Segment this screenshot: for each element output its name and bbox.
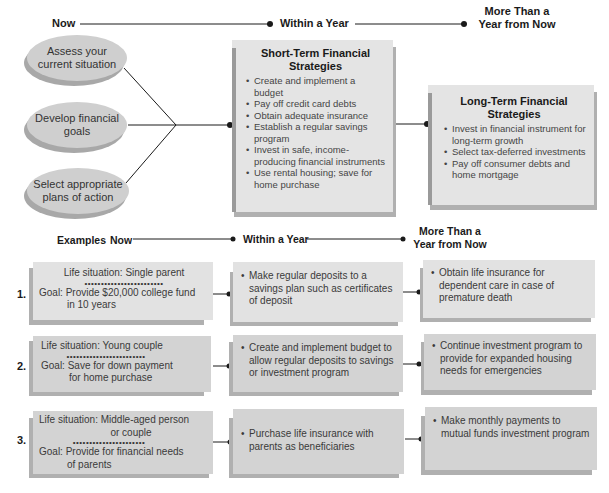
goal-line1: Goal: Provide for financial needs: [39, 446, 209, 459]
example-3-situation-box: Life situation: Middle-aged person or co…: [33, 411, 213, 474]
step-assess-situation: Assess yourcurrent situation: [27, 35, 127, 81]
long-term-list: Invest in financial instrument for long-…: [442, 123, 586, 181]
short-term-item: Invest in safe, income-producing financi…: [254, 144, 387, 167]
separator-dots: ••••••••••••••••••••••••: [41, 353, 171, 360]
short-term-item: Obtain adequate insurance: [254, 110, 387, 122]
short-term-item: Establish a regular savings program: [254, 121, 387, 144]
long-term-strategies-box: Long-Term FinancialStrategies Invest in …: [428, 85, 594, 205]
goal-line2: of parents: [39, 459, 209, 472]
step-label-line2: current situation: [38, 58, 116, 71]
timeline-more-than-year-line2: Year from Now: [472, 18, 562, 31]
short-term-item: Pay off credit card debts: [254, 98, 387, 110]
step-label-line2: goals: [35, 125, 119, 138]
separator-dots: ••••••••••••••••••••••: [39, 439, 179, 446]
step-label-line2: plans of action: [33, 191, 122, 204]
short-term-item: Create and implement a budget: [254, 75, 387, 98]
example-number: 1.: [17, 288, 26, 300]
goal-line2: for home purchase: [41, 372, 207, 385]
goal-line1: Goal: Provide $20,000 college fund: [39, 287, 209, 300]
life-situation: Life situation: Young couple: [41, 340, 207, 353]
step-label-line1: Develop financial: [35, 112, 119, 125]
short-term-title: Short-Term FinancialStrategies: [244, 47, 387, 73]
example-1-situation-box: Life situation: Single parent ••••••••••…: [33, 262, 213, 320]
long-term-action: Obtain life insurance for dependent care…: [431, 267, 589, 305]
long-term-item: Select tax-deferred investments: [452, 146, 586, 158]
example-1-within-year-box: Make regular deposits to a savings plan …: [233, 262, 403, 322]
step-label-line1: Select appropriate: [33, 178, 122, 191]
timeline-more-than-year-label: More Than a Year from Now: [472, 5, 562, 31]
step-develop-goals: Develop financialgoals: [27, 102, 127, 148]
long-term-item: Invest in financial instrument for long-…: [452, 123, 586, 146]
examples-label: Examples: [57, 234, 106, 246]
example-number: 2.: [17, 360, 26, 372]
long-term-item: Pay off consumer debts and home mortgage: [452, 158, 586, 181]
within-year-action: Purchase life insurance with parents as …: [241, 428, 398, 453]
example-1-long-term-box: Obtain life insurance for dependent care…: [423, 260, 595, 318]
within-year-action: Create and implement budget to allow reg…: [241, 342, 397, 380]
long-term-action: Make monthly payments to mutual funds in…: [433, 415, 591, 440]
short-term-list: Create and implement a budget Pay off cr…: [244, 75, 387, 190]
example-2-within-year-box: Create and implement budget to allow reg…: [233, 335, 403, 392]
long-term-action: Continue investment program to provide f…: [432, 340, 590, 378]
example-3-long-term-box: Make monthly payments to mutual funds in…: [425, 407, 597, 470]
life-situation-line1: Life situation: Middle-aged person: [39, 414, 209, 427]
example-2-situation-box: Life situation: Young couple •••••••••••…: [33, 336, 211, 392]
life-situation-line2: or couple: [39, 427, 209, 440]
examples-within-year-label: Within a Year: [243, 233, 309, 245]
examples-more-than-year-line1: More Than a: [410, 225, 490, 238]
goal-line1: Goal: Save for down payment: [41, 360, 207, 373]
box-accent-bar: [428, 93, 432, 205]
separator-dots: ••••••••••••••••••••••••: [39, 280, 209, 287]
timeline-within-year-label: Within a Year: [280, 17, 349, 29]
examples-now-label: Now: [110, 234, 132, 246]
step-select-plans: Select appropriateplans of action: [27, 168, 129, 214]
life-situation: Life situation: Single parent: [39, 267, 209, 280]
short-term-strategies-box: Short-Term FinancialStrategies Create an…: [232, 40, 393, 212]
example-3-within-year-box: Purchase life insurance with parents as …: [233, 409, 404, 474]
short-term-item: Use rental housing; save for home purcha…: [254, 167, 387, 190]
examples-more-than-year-line2: Year from Now: [410, 238, 490, 251]
long-term-title: Long-Term FinancialStrategies: [442, 95, 586, 121]
example-number: 3.: [17, 434, 26, 446]
timeline-now-label: Now: [52, 17, 75, 29]
box-accent-bar: [232, 48, 236, 212]
timeline-more-than-year-line1: More Than a: [472, 5, 562, 18]
step-label-line1: Assess your: [38, 45, 116, 58]
goal-line2: in 10 years: [39, 299, 209, 312]
examples-more-than-year-label: More Than a Year from Now: [410, 225, 490, 251]
example-2-long-term-box: Continue investment program to provide f…: [424, 334, 596, 390]
within-year-action: Make regular deposits to a savings plan …: [241, 270, 397, 308]
